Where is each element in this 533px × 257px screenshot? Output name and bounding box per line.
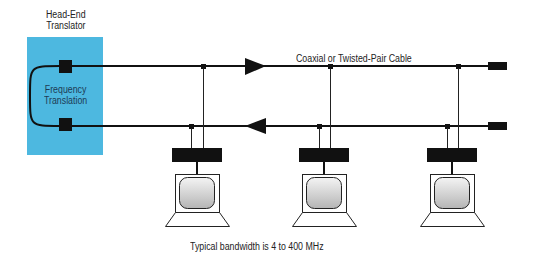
cable-label: Coaxial or Twisted-Pair Cable [296,53,412,64]
decoder-box-2 [299,148,349,162]
terminator-top [488,62,507,70]
bandwidth-note: Typical bandwidth is 4 to 400 MHz [190,241,324,252]
frequency-translation-line2: Translation [44,95,87,106]
monitor-icon [421,175,485,227]
terminal-1 [166,64,230,227]
terminal-3 [421,64,485,227]
headend-port-top [59,60,72,73]
broadband-network-diagram [0,0,533,257]
return-arrow-icon [245,118,266,134]
terminal-2 [293,64,357,227]
headend-title-line1: Head-End [46,9,86,20]
frequency-translation-line1: Frequency [44,84,87,95]
headend-port-bottom [59,118,72,131]
monitor-icon [166,175,230,227]
frequency-translation-label: Frequency Translation [44,84,87,106]
terminator-bottom [488,122,507,130]
forward-arrow-icon [245,58,266,75]
headend-title: Head-End Translator [46,9,86,31]
headend-title-line2: Translator [46,20,86,31]
decoder-box-3 [427,148,477,162]
decoder-box-1 [172,148,222,162]
monitor-icon [293,175,357,227]
